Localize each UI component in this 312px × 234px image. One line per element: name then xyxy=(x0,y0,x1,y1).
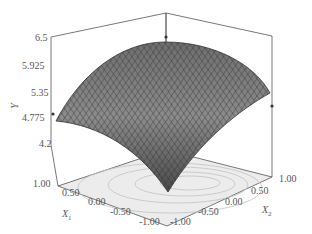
x1-tick: 0.50 xyxy=(62,188,80,198)
x2-tick: 1.00 xyxy=(279,174,297,184)
x1-tick: -0.50 xyxy=(110,207,131,217)
x2-label-sub: 2 xyxy=(268,210,272,218)
y-tick: 5.925 xyxy=(22,61,45,71)
x1-tick: 1.00 xyxy=(33,179,51,189)
y-tick: 4.775 xyxy=(22,113,45,123)
x1-label-sub: 1 xyxy=(68,214,72,222)
x2-tick: -0.50 xyxy=(198,207,219,217)
y-tick: 6.5 xyxy=(35,33,48,43)
y-tick: 4.2 xyxy=(39,139,52,149)
data-point-marker xyxy=(270,104,273,107)
x2-tick: -1.00 xyxy=(170,217,191,227)
data-point-marker xyxy=(164,35,167,38)
x2-axis-label: X2 xyxy=(262,205,272,218)
data-point-marker xyxy=(51,112,54,115)
x1-tick: -1.00 xyxy=(139,217,160,227)
y-axis-label: Y xyxy=(10,103,20,109)
x1-axis-label: X1 xyxy=(62,209,72,222)
x2-tick: 0.50 xyxy=(251,186,269,196)
x1-tick: 0.00 xyxy=(88,197,106,207)
x2-tick: 0.00 xyxy=(225,197,243,207)
y-tick: 5.35 xyxy=(31,88,49,98)
